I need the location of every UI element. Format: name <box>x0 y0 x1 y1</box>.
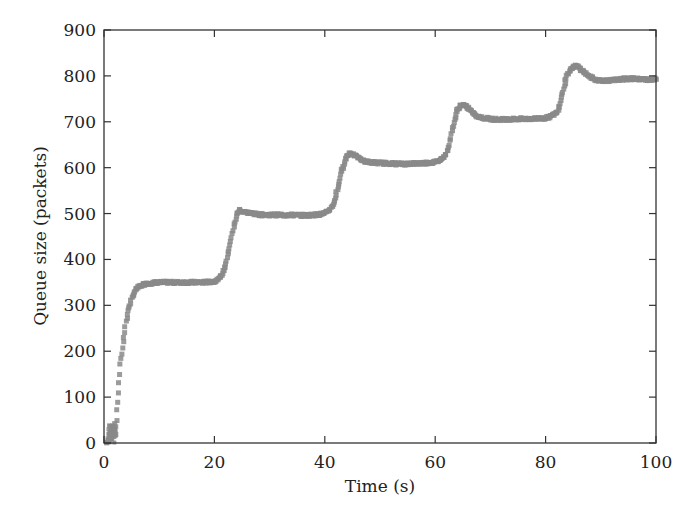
x-axis: 020406080100 <box>99 30 673 472</box>
x-tick-label: 0 <box>99 452 110 472</box>
y-tick-label: 800 <box>64 66 96 86</box>
y-tick-label: 100 <box>64 387 96 407</box>
x-tick-label: 100 <box>640 452 672 472</box>
plot-frame <box>104 30 656 443</box>
y-tick-label: 500 <box>64 204 96 224</box>
y-axis-title: Queue size (packets) <box>30 146 50 326</box>
y-tick-label: 400 <box>64 249 96 269</box>
y-tick-label: 900 <box>64 20 96 40</box>
x-tick-label: 20 <box>204 452 226 472</box>
y-tick-label: 600 <box>64 158 96 178</box>
x-tick-label: 80 <box>535 452 557 472</box>
y-tick-label: 200 <box>64 341 96 361</box>
x-tick-label: 60 <box>424 452 446 472</box>
queue-size-chart: 020406080100 010020030040050060070080090… <box>0 0 695 519</box>
data-points <box>104 63 659 446</box>
y-tick-label: 0 <box>85 433 96 453</box>
y-tick-label: 300 <box>64 295 96 315</box>
x-axis-title: Time (s) <box>345 476 415 496</box>
y-tick-label: 700 <box>64 112 96 132</box>
x-tick-label: 40 <box>314 452 336 472</box>
